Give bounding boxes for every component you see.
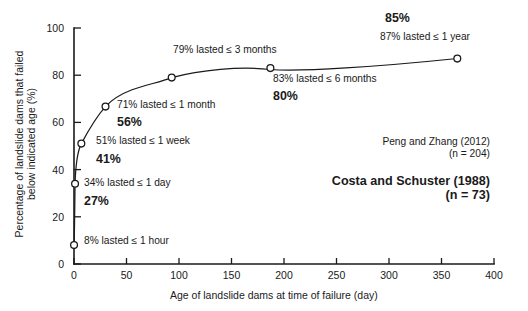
x-tick-label-250: 250: [319, 270, 355, 281]
y-tick-label-20: 20: [40, 212, 64, 223]
x-tick-label-300: 300: [371, 270, 407, 281]
y-axis-title-line2: below indicated age (%): [26, 26, 38, 262]
annotation-6-months-bold: 80%: [273, 90, 298, 102]
y-tick-label-60: 60: [40, 117, 64, 128]
y-axis-title-line1: Percentage of landslide dams that failed: [14, 26, 26, 262]
x-tick-label-0: 0: [56, 270, 92, 281]
source-costa-schuster-line1: Costa and Schuster (1988): [250, 174, 490, 188]
x-tick-label-100: 100: [161, 270, 197, 281]
data-point-1-day: [72, 180, 79, 187]
x-tick-label-400: 400: [476, 270, 512, 281]
source-peng-zhang: Peng and Zhang (2012) (n = 204): [280, 136, 490, 159]
y-tick-label-40: 40: [40, 165, 64, 176]
source-peng-zhang-line1: Peng and Zhang (2012): [280, 136, 490, 148]
annotation-1-week-bold: 41%: [96, 153, 121, 165]
x-tick-label-350: 350: [424, 270, 460, 281]
annotation-1-day-bold: 27%: [84, 195, 109, 207]
annotation-1-month: 71% lasted ≤ 1 month: [117, 100, 215, 110]
x-tick-label-50: 50: [109, 270, 145, 281]
y-tick-label-0: 0: [40, 259, 64, 270]
data-point-3-months: [168, 74, 175, 81]
data-point-1-year: [454, 55, 461, 62]
annotation-1-hour: 8% lasted ≤ 1 hour: [84, 236, 169, 246]
annotation-1-month-bold: 56%: [117, 116, 142, 128]
source-costa-schuster: Costa and Schuster (1988) (n = 73): [250, 174, 490, 203]
chart-figure: 100 80 60 40 20 0 0 50 100 150 200 250 3…: [0, 0, 528, 311]
data-point-1-month: [102, 103, 109, 110]
y-tick-label-100: 100: [40, 23, 64, 34]
x-tick-label-200: 200: [266, 270, 302, 281]
annotation-1-year-bold: 85%: [385, 12, 410, 24]
source-peng-zhang-line2: (n = 204): [280, 148, 490, 160]
y-axis-title: Percentage of landslide dams that failed…: [14, 26, 38, 262]
x-axis-title: Age of landslide dams at time of failure…: [170, 290, 378, 302]
x-tick-marks: [74, 258, 494, 264]
data-point-1-hour: [71, 242, 78, 249]
annotation-1-week: 51% lasted ≤ 1 week: [96, 136, 190, 146]
data-point-6-months: [267, 65, 274, 72]
annotation-3-months: 79% lasted ≤ 3 months: [173, 45, 277, 55]
y-tick-label-80: 80: [40, 70, 64, 81]
annotation-6-months: 83% lasted ≤ 6 months: [273, 74, 377, 84]
x-tick-label-150: 150: [214, 270, 250, 281]
annotation-1-day: 34% lasted ≤ 1 day: [84, 178, 171, 188]
annotation-1-year: 87% lasted ≤ 1 year: [380, 32, 470, 42]
data-point-1-week: [78, 140, 85, 147]
source-costa-schuster-line2: (n = 73): [250, 188, 490, 202]
